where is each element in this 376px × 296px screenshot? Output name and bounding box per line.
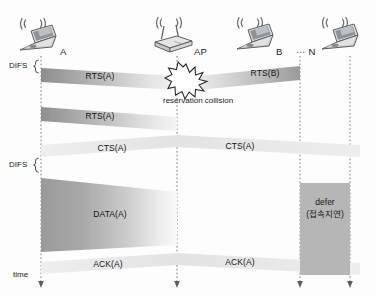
defer-label-ko: (접속지연) bbox=[300, 209, 350, 220]
difs-label-1: DIFS bbox=[9, 61, 27, 70]
timeline-arrowheads bbox=[38, 281, 353, 288]
laptop-icon-b bbox=[237, 18, 273, 50]
node-label-n: ⋯ N bbox=[296, 46, 316, 57]
node-label-ap: AP bbox=[194, 46, 207, 57]
difs-brace-2 bbox=[34, 158, 39, 172]
difs-label-2: DIFS bbox=[9, 160, 27, 169]
node-label-b: B bbox=[276, 46, 283, 57]
message-label-ack-a-right: ACK(A) bbox=[200, 257, 280, 267]
diagram-canvas bbox=[0, 0, 376, 296]
wifi-rts-cts-timing-diagram: A AP B ⋯ N DIFS DIFS RTS(A) RTS(B) RTS(A… bbox=[0, 0, 376, 296]
message-label-cts-a-left: CTS(A) bbox=[72, 143, 152, 153]
time-axis-label: time bbox=[13, 270, 28, 279]
difs-brace-1 bbox=[34, 60, 39, 73]
message-label-data-a: DATA(A) bbox=[65, 209, 155, 219]
node-label-a: A bbox=[60, 46, 67, 57]
message-label-rts-a-1: RTS(A) bbox=[60, 71, 140, 81]
starburst-icon bbox=[165, 62, 207, 99]
defer-label-en: defer bbox=[300, 197, 350, 208]
collision-label: reservation collision bbox=[163, 96, 233, 105]
message-label-rts-b: RTS(B) bbox=[225, 68, 305, 78]
message-label-rts-a-2: RTS(A) bbox=[60, 111, 140, 121]
laptop-icon-a bbox=[20, 19, 56, 51]
access-point-icon bbox=[155, 18, 192, 53]
laptop-icon-n bbox=[322, 18, 358, 50]
message-label-cts-a-right: CTS(A) bbox=[200, 141, 280, 151]
message-label-ack-a-left: ACK(A) bbox=[68, 259, 148, 269]
